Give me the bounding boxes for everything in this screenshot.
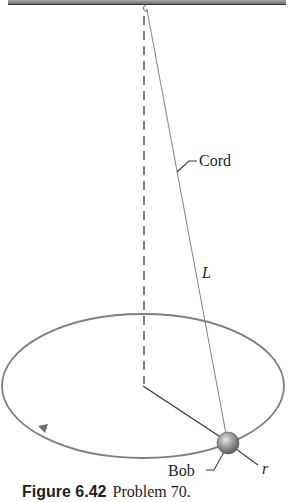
ceiling (8, 0, 286, 5)
radius-leader-line (236, 449, 258, 465)
caption-text: Problem 70. (112, 483, 190, 500)
conical-pendulum-figure: Cord L Bob r Figure 6.42Problem 70. (0, 0, 290, 502)
radius-line (143, 386, 222, 438)
pendulum-diagram: Cord L Bob r (0, 0, 290, 502)
length-label: L (201, 264, 211, 281)
direction-arrow-icon (38, 424, 48, 433)
cord-label: Cord (199, 152, 231, 169)
radius-label: r (262, 460, 269, 477)
figure-number: Figure 6.42 (22, 483, 106, 500)
figure-caption: Figure 6.42Problem 70. (22, 483, 191, 501)
bob-label: Bob (168, 462, 195, 479)
cord-leader-line (177, 161, 197, 172)
cord-line (147, 10, 226, 434)
pendulum-bob (217, 432, 239, 454)
bob-leader-line (206, 452, 224, 470)
